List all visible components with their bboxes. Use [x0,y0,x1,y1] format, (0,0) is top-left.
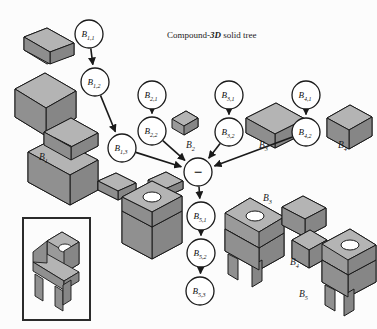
solid-b2-diamond [172,111,198,135]
tree-node-b12[interactable]: B1,2 [81,68,109,96]
result-solid-frame [23,218,90,320]
title-suffix: solid tree [221,30,257,40]
tree-edge-b12-to-b13 [100,95,115,131]
tree-edge-op-to-b51 [199,186,200,198]
figure-title: Compound-3D solid tree [167,30,257,40]
tree-node-b21[interactable]: B2,1 [138,81,166,109]
tree-node-b32[interactable]: B3,2 [215,118,243,146]
tree-node-b41[interactable]: B4,1 [292,81,320,109]
tree-node-difference-operator[interactable]: − [184,158,212,186]
tree-node-b51[interactable]: B5,1 [187,202,215,230]
solid-b4-box [327,105,372,149]
title-prefix: Compound- [167,30,210,40]
figure-canvas: Compound-3D solid tree [0,0,377,329]
solid-b2-bracket [122,181,182,259]
tree-edge-b11-to-b12 [91,48,93,64]
solid-b5-chair [322,229,376,316]
tree-nodes: B1,1B1,2B1,3B2,1B2,2B3,1B3,2B4,1B4,2B5,1… [75,20,320,305]
tree-node-b22[interactable]: B2,2 [138,117,166,145]
tree-edge-b13-to-op [136,152,181,166]
solid-label-lbl-b3b: B3 [263,193,272,205]
tree-node-b31[interactable]: B3,1 [215,81,243,109]
tree-node-b53[interactable]: B5,3 [186,277,214,305]
tree-node-b13[interactable]: B1,3 [108,134,136,162]
solid-b1-1-slab [24,28,74,64]
result-chair-solid [33,232,79,311]
solid-label-lbl-b2: B2 [186,140,195,152]
solid-b3-chair-partial [225,198,284,287]
tree-node-b42[interactable]: B4,2 [292,118,320,146]
solid-b3-back-piece [282,196,326,237]
tree-node-b52[interactable]: B5,2 [187,239,215,267]
minus-operator-icon: − [194,164,203,180]
solid-label-lbl-b5: B5 [299,289,308,301]
title-emphasis: 3D [209,30,222,40]
tree-edge-b22-to-op [163,141,185,161]
tree-edge-b32-to-op [209,143,220,158]
tree-node-b11[interactable]: B1,1 [75,20,103,48]
compound-3d-solid-tree-figure: Compound-3D solid tree [0,0,377,329]
